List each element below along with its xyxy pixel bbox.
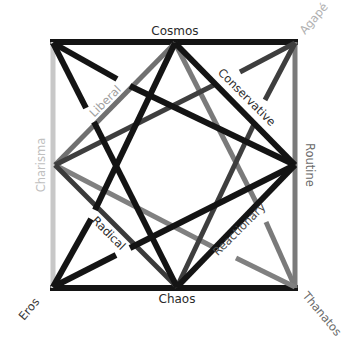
line-cosmos-eros-a bbox=[95, 43, 175, 210]
node-label-charisma: Charisma bbox=[34, 138, 48, 193]
node-label-chaos: Chaos bbox=[159, 292, 196, 306]
line-cosmos-charisma bbox=[55, 43, 175, 165]
ideology-star-diagram: Cosmos Chaos Agapé Charisma Routine Eros… bbox=[0, 0, 356, 354]
line-cosmos-routine bbox=[175, 43, 295, 165]
node-label-thanatos: Thanatos bbox=[299, 288, 345, 339]
node-label-eros: Eros bbox=[16, 295, 43, 323]
line-label-reactionary: Reactionary bbox=[210, 200, 268, 258]
line-charisma-chaos bbox=[55, 165, 177, 287]
node-label-agape: Agapé bbox=[297, 0, 331, 37]
node-label-cosmos: Cosmos bbox=[151, 24, 198, 38]
node-label-routine: Routine bbox=[303, 143, 317, 187]
